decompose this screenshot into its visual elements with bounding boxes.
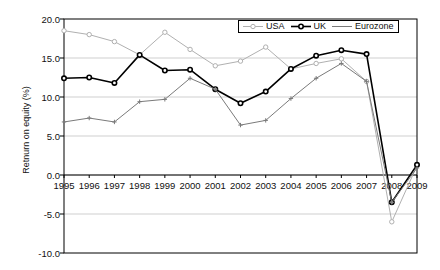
data-point-uk: [264, 89, 268, 93]
legend-item-eurozone: Eurozone: [332, 22, 394, 31]
data-point-usa: [238, 59, 242, 63]
data-point-usa: [264, 45, 268, 49]
data-point-usa: [213, 64, 217, 68]
data-point-uk: [137, 53, 141, 57]
data-point-usa: [163, 30, 167, 34]
data-point-uk: [364, 52, 368, 56]
legend-item-uk: UK: [291, 22, 327, 31]
data-point-usa: [339, 57, 343, 61]
legend-label: Eurozone: [355, 22, 394, 31]
data-point-uk: [314, 53, 318, 57]
chart-legend: USAUKEurozone: [238, 20, 399, 33]
data-point-uk: [62, 76, 66, 80]
data-point-uk: [339, 48, 343, 52]
data-point-uk: [112, 81, 116, 85]
data-point-usa: [62, 29, 66, 33]
data-point-uk: [163, 68, 167, 72]
legend-label: USA: [266, 22, 285, 31]
legend-marker-usa: [243, 22, 263, 31]
data-point-uk: [238, 101, 242, 105]
data-point-usa: [188, 47, 192, 51]
data-point-usa: [87, 32, 91, 36]
data-point-eurozone: [87, 116, 91, 120]
data-point-eurozone: [62, 120, 66, 124]
data-point-uk: [289, 67, 293, 71]
legend-marker-eurozone: [332, 22, 352, 31]
data-point-usa: [390, 220, 394, 224]
plot-area: [0, 0, 440, 270]
legend-item-usa: USA: [243, 22, 285, 31]
data-point-uk: [188, 68, 192, 72]
legend-marker-uk: [291, 22, 311, 31]
legend-label: UK: [314, 22, 327, 31]
data-point-uk: [87, 75, 91, 79]
data-point-usa: [112, 39, 116, 43]
chart-container: Retnurn on equity (%) 20.015.010.05.00.0…: [0, 0, 440, 270]
data-point-usa: [314, 61, 318, 65]
